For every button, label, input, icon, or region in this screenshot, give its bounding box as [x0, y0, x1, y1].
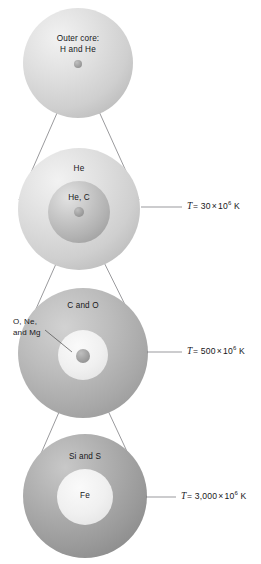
temperature-label-2: T= 30×106 K [187, 201, 240, 211]
temp-value-3: 500 [201, 346, 216, 356]
panel-1-outer-core [23, 8, 133, 118]
panel-4-silicon-iron-core [23, 434, 147, 558]
temp-value-4: 3,000 [195, 491, 218, 501]
temp-exponent-4: 6 [234, 490, 238, 496]
temp-base-2: 10 [218, 201, 228, 211]
temp-times-3: × [216, 346, 223, 356]
temp-unit-2: K [234, 201, 240, 211]
diagram-canvas [0, 0, 261, 564]
panel-2-zoom-dot [74, 207, 84, 217]
fe-core [57, 469, 113, 525]
temp-base-3: 10 [223, 346, 233, 356]
temp-times-2: × [211, 201, 218, 211]
temp-equals-2: = [193, 201, 198, 211]
temp-equals-4: = [187, 491, 192, 501]
temp-unit-4: K [241, 491, 247, 501]
temperature-label-4: T= 3,000×106 K [181, 491, 247, 501]
panel-1-zoom-dot [74, 60, 82, 68]
temp-value-2: 30 [201, 201, 211, 211]
temp-exponent-2: 6 [228, 200, 232, 206]
temp-equals-3: = [193, 346, 198, 356]
temp-unit-3: K [239, 346, 245, 356]
temp-base-4: 10 [224, 491, 234, 501]
stellar-core-diagram: Outer core: H and He He He, C C and O O,… [0, 0, 261, 564]
panel-3-carbon-oxygen-shell [18, 288, 148, 418]
temp-exponent-3: 6 [233, 345, 237, 351]
panel-3-zoom-dot [76, 349, 90, 363]
temperature-label-3: T= 500×106 K [187, 346, 245, 356]
panel-2-helium-shell [18, 148, 140, 270]
